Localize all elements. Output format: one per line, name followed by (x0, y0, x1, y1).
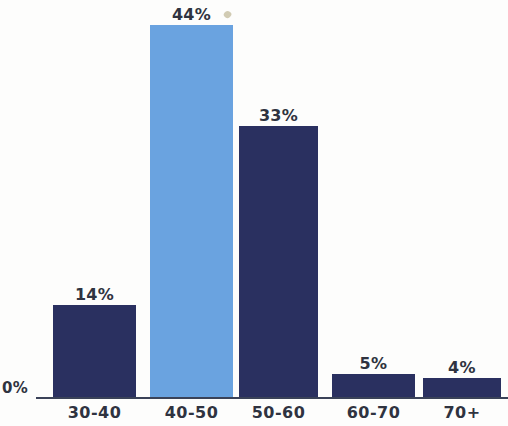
bar-value-label-3: 5% (332, 356, 415, 372)
bar-group-3: 5% (332, 0, 415, 398)
bar-group-1: 44% (150, 0, 233, 398)
bar-value-label-0: 14% (53, 287, 136, 303)
bar-value-label-4: 4% (423, 360, 501, 376)
category-label-3: 60-70 (332, 402, 415, 424)
category-label-0: 30-40 (53, 402, 136, 424)
bar-group-0: 14% (53, 0, 136, 398)
bar-3 (332, 374, 415, 398)
x-axis-line (36, 397, 508, 399)
bar-value-label-2: 33% (239, 108, 318, 124)
category-label-1: 40-50 (150, 402, 233, 424)
category-label-2: 50-60 (239, 402, 318, 424)
bar-chart: 14% 44% 33% 5% 4% 0% 30-40 40-50 50-60 6… (0, 0, 508, 426)
category-axis: 30-40 40-50 50-60 60-70 70+ (0, 402, 508, 426)
bar-1 (150, 25, 233, 398)
bar-4 (423, 378, 501, 398)
category-label-4: 70+ (423, 402, 501, 424)
bar-group-2: 33% (239, 0, 318, 398)
bar-group-4: 4% (423, 0, 501, 398)
bar-2 (239, 126, 318, 398)
bar-value-label-1: 44% (150, 7, 233, 23)
plot-area: 14% 44% 33% 5% 4% (0, 0, 508, 398)
y-axis-zero-label: 0% (2, 381, 28, 396)
bar-0 (53, 305, 136, 398)
